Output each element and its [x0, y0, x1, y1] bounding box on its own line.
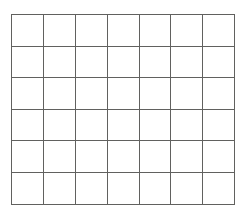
grid-cell-text [76, 78, 107, 109]
grid-cell[interactable] [139, 172, 171, 204]
grid-cell[interactable] [139, 141, 171, 173]
grid-cell-text [203, 173, 234, 204]
grid-row [12, 78, 235, 110]
grid-cell-text [44, 141, 75, 172]
grid-cell[interactable] [12, 15, 44, 47]
grid-cell[interactable] [139, 78, 171, 110]
grid-cell-text [140, 173, 171, 204]
grid-cell-text [44, 15, 75, 46]
grid-row [12, 141, 235, 173]
grid-cell[interactable] [107, 172, 139, 204]
grid-cell-text [108, 141, 139, 172]
grid-cell-text [44, 78, 75, 109]
grid-cell-text [76, 110, 107, 141]
grid-cell[interactable] [12, 172, 44, 204]
grid-cell[interactable] [75, 109, 107, 141]
grid-cell[interactable] [43, 172, 75, 204]
grid-cell[interactable] [171, 15, 203, 47]
grid-row [12, 172, 235, 204]
grid-cell-text [12, 47, 43, 78]
grid-cell-text [44, 173, 75, 204]
grid-row [12, 15, 235, 47]
grid-cell-text [171, 173, 202, 204]
grid-body [12, 15, 235, 205]
grid-row [12, 109, 235, 141]
grid-cell[interactable] [107, 15, 139, 47]
grid-cell[interactable] [43, 78, 75, 110]
grid-cell[interactable] [75, 46, 107, 78]
grid-cell[interactable] [43, 15, 75, 47]
grid-cell[interactable] [139, 46, 171, 78]
grid-cell-text [12, 173, 43, 204]
grid-cell-text [140, 47, 171, 78]
grid-cell[interactable] [203, 15, 235, 47]
grid-cell-text [171, 15, 202, 46]
grid-cell[interactable] [139, 15, 171, 47]
grid-cell-text [76, 15, 107, 46]
grid-cell[interactable] [107, 109, 139, 141]
grid-cell-text [76, 141, 107, 172]
grid-cell[interactable] [12, 78, 44, 110]
grid-cell-text [203, 78, 234, 109]
grid-cell[interactable] [43, 46, 75, 78]
grid-cell-text [108, 47, 139, 78]
grid-cell[interactable] [12, 141, 44, 173]
grid-cell-text [171, 78, 202, 109]
grid-cell-text [44, 47, 75, 78]
grid-cell[interactable] [107, 78, 139, 110]
grid-cell[interactable] [203, 141, 235, 173]
grid-cell[interactable] [171, 172, 203, 204]
grid-cell-text [140, 15, 171, 46]
grid-cell-text [203, 47, 234, 78]
blank-grid [11, 14, 235, 205]
grid-cell[interactable] [171, 141, 203, 173]
grid-cell[interactable] [12, 46, 44, 78]
grid-cell[interactable] [171, 46, 203, 78]
grid-cell[interactable] [203, 78, 235, 110]
grid-cell-text [171, 110, 202, 141]
grid-cell-text [171, 47, 202, 78]
grid-cell-text [171, 141, 202, 172]
grid-cell-text [203, 15, 234, 46]
grid-cell[interactable] [139, 109, 171, 141]
grid-cell[interactable] [203, 46, 235, 78]
grid-cell-text [140, 141, 171, 172]
grid-cell[interactable] [203, 109, 235, 141]
grid-cell[interactable] [107, 46, 139, 78]
grid-cell[interactable] [75, 15, 107, 47]
grid-cell[interactable] [107, 141, 139, 173]
grid-cell-text [108, 110, 139, 141]
grid-cell[interactable] [12, 109, 44, 141]
grid-row [12, 46, 235, 78]
grid-cell[interactable] [43, 109, 75, 141]
grid-cell-text [203, 141, 234, 172]
grid-cell-text [12, 141, 43, 172]
grid-cell[interactable] [75, 78, 107, 110]
grid-cell[interactable] [43, 141, 75, 173]
grid-cell-text [44, 110, 75, 141]
grid-cell-text [12, 15, 43, 46]
grid-cell[interactable] [171, 109, 203, 141]
grid-cell[interactable] [75, 172, 107, 204]
grid-cell[interactable] [203, 172, 235, 204]
grid-cell-text [76, 173, 107, 204]
grid-cell[interactable] [171, 78, 203, 110]
grid-cell-text [12, 78, 43, 109]
grid-cell-text [76, 47, 107, 78]
diagram-canvas [0, 0, 238, 214]
grid-cell-text [140, 78, 171, 109]
grid-cell-text [203, 110, 234, 141]
grid-cell-text [12, 110, 43, 141]
grid-cell-text [108, 15, 139, 46]
grid-cell-text [108, 78, 139, 109]
grid-cell-text [108, 173, 139, 204]
grid-cell-text [140, 110, 171, 141]
grid-cell[interactable] [75, 141, 107, 173]
